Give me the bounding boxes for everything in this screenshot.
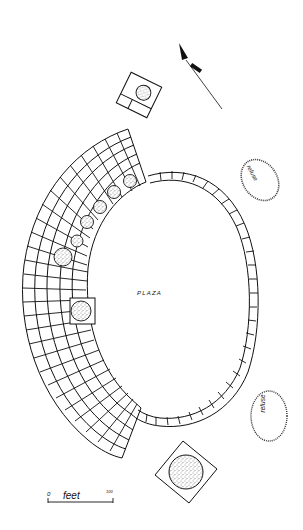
kiva-3 <box>94 201 107 214</box>
scale-start-label: 0 <box>47 491 50 497</box>
scale-unit-label: feet <box>63 490 80 501</box>
kiva-4 <box>81 216 94 229</box>
great-kiva <box>155 441 217 503</box>
kiva-5 <box>71 235 83 247</box>
east-room-row <box>136 171 258 427</box>
refuse-mound-southeast <box>251 391 287 441</box>
kiva-2 <box>108 186 121 199</box>
kiva-1 <box>124 175 137 188</box>
kiva-6 <box>54 248 72 266</box>
scale-end-label: 100 <box>106 489 113 494</box>
site-plan <box>0 0 303 530</box>
north-arrow-icon <box>179 43 222 109</box>
plaza-label: PLAZA <box>137 290 162 296</box>
scale-bar <box>48 498 113 503</box>
refuse-label-southeast: refuse <box>259 394 266 412</box>
north-detached-kiva <box>116 72 161 117</box>
refuse-mound-northeast <box>233 152 286 208</box>
plaza-kiva-enclosure <box>70 298 95 324</box>
